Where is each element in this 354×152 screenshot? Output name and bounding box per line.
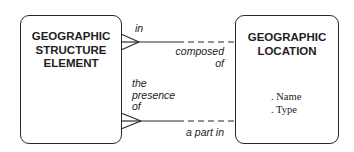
entity-title-line: ELEMENT bbox=[21, 57, 121, 71]
attribute-type: . Type bbox=[271, 104, 301, 117]
label-the-presence-of: the presence of bbox=[132, 78, 175, 113]
label-composed-of: composed of bbox=[170, 46, 224, 69]
label-line: the bbox=[132, 78, 175, 90]
entity-title-line: STRUCTURE bbox=[21, 44, 121, 58]
label-line: composed bbox=[170, 46, 224, 58]
label-in: in bbox=[135, 23, 143, 35]
label-line: of bbox=[170, 58, 224, 70]
entity-title-line: GEOGRAPHIC bbox=[236, 31, 338, 45]
entity-title-line: LOCATION bbox=[236, 45, 338, 59]
entity-geographic-location[interactable]: GEOGRAPHIC LOCATION . Name . Type bbox=[235, 15, 339, 144]
entity-title-line: GEOGRAPHIC bbox=[21, 30, 121, 44]
label-line: of bbox=[132, 101, 175, 113]
entity-geographic-structure-element[interactable]: GEOGRAPHIC STRUCTURE ELEMENT bbox=[20, 15, 122, 144]
attribute-name: . Name bbox=[271, 91, 301, 104]
label-a-part-in: a part in bbox=[170, 127, 224, 139]
